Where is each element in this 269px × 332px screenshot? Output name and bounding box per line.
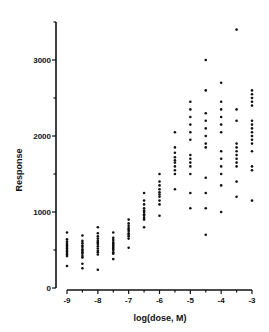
data-point bbox=[97, 232, 100, 235]
x-tick-label: -8 bbox=[94, 296, 102, 305]
data-point bbox=[97, 253, 100, 256]
data-point bbox=[97, 226, 100, 229]
data-point bbox=[66, 255, 69, 258]
data-point bbox=[189, 154, 192, 157]
data-point bbox=[81, 267, 84, 270]
data-point bbox=[251, 199, 254, 202]
data-point bbox=[204, 234, 207, 237]
scatter-chart: 0100020003000 -9-8-7-6-5-4-3 Response lo… bbox=[0, 0, 269, 332]
data-point bbox=[174, 169, 177, 172]
data-point bbox=[158, 191, 161, 194]
x-axis: -9-8-7-6-5-4-3 bbox=[63, 290, 256, 305]
data-point bbox=[174, 159, 177, 162]
y-tick-label: 1000 bbox=[33, 208, 51, 217]
data-point bbox=[220, 116, 223, 119]
data-point bbox=[251, 93, 254, 96]
data-point bbox=[112, 249, 115, 252]
data-point bbox=[189, 101, 192, 104]
data-point bbox=[81, 242, 84, 245]
x-tick-label: -9 bbox=[63, 296, 71, 305]
data-point bbox=[189, 116, 192, 119]
data-point bbox=[235, 120, 238, 123]
data-point bbox=[220, 158, 223, 161]
data-point bbox=[235, 28, 238, 31]
data-point bbox=[112, 253, 115, 256]
data-point bbox=[81, 240, 84, 243]
data-point bbox=[204, 192, 207, 195]
data-point bbox=[220, 131, 223, 134]
data-points bbox=[66, 28, 254, 271]
data-point bbox=[235, 108, 238, 111]
data-point bbox=[204, 127, 207, 130]
data-point bbox=[81, 234, 84, 237]
data-point bbox=[251, 89, 254, 92]
data-point bbox=[81, 262, 84, 265]
data-point bbox=[251, 131, 254, 134]
data-point bbox=[189, 108, 192, 111]
data-point bbox=[158, 173, 161, 176]
data-point bbox=[174, 131, 177, 134]
data-point bbox=[97, 247, 100, 250]
data-point bbox=[174, 165, 177, 168]
data-point bbox=[112, 237, 115, 240]
data-point bbox=[127, 237, 130, 240]
x-axis-title: log(dose, M) bbox=[134, 313, 187, 323]
data-point bbox=[251, 135, 254, 138]
y-axis: 0100020003000 bbox=[33, 22, 56, 293]
data-point bbox=[158, 215, 161, 218]
data-point bbox=[235, 196, 238, 199]
data-point bbox=[204, 59, 207, 62]
data-point bbox=[220, 101, 223, 104]
y-tick-label: 3000 bbox=[33, 56, 51, 65]
data-point bbox=[220, 165, 223, 168]
data-point bbox=[127, 218, 130, 221]
data-point bbox=[251, 150, 254, 153]
data-point bbox=[204, 120, 207, 123]
data-point bbox=[220, 184, 223, 187]
data-point bbox=[174, 156, 177, 159]
data-point bbox=[235, 154, 238, 157]
data-point bbox=[220, 211, 223, 214]
data-point bbox=[189, 123, 192, 126]
data-point bbox=[81, 253, 84, 256]
data-point bbox=[251, 165, 254, 168]
data-point bbox=[143, 203, 146, 206]
data-point bbox=[204, 142, 207, 145]
data-point bbox=[235, 161, 238, 164]
data-point bbox=[81, 246, 84, 249]
data-point bbox=[112, 239, 115, 242]
data-point bbox=[251, 169, 254, 172]
data-point bbox=[220, 108, 223, 111]
data-point bbox=[204, 146, 207, 149]
data-point bbox=[158, 188, 161, 191]
data-point bbox=[220, 173, 223, 176]
data-point bbox=[127, 235, 130, 238]
data-point bbox=[235, 158, 238, 161]
data-point bbox=[66, 231, 69, 234]
data-point bbox=[66, 238, 69, 241]
data-point bbox=[189, 192, 192, 195]
data-point bbox=[235, 165, 238, 168]
data-point bbox=[189, 131, 192, 134]
data-point bbox=[204, 89, 207, 92]
data-point bbox=[204, 112, 207, 115]
data-point bbox=[251, 142, 254, 145]
data-point bbox=[251, 97, 254, 100]
data-point bbox=[204, 207, 207, 210]
data-point bbox=[235, 146, 238, 149]
data-point bbox=[235, 180, 238, 183]
data-point bbox=[143, 207, 146, 210]
data-point bbox=[97, 268, 100, 271]
data-point bbox=[97, 243, 100, 246]
data-point bbox=[174, 188, 177, 191]
data-point bbox=[189, 165, 192, 168]
data-point bbox=[158, 199, 161, 202]
data-point bbox=[189, 207, 192, 210]
data-point bbox=[174, 151, 177, 154]
data-point bbox=[251, 120, 254, 123]
data-point bbox=[204, 135, 207, 138]
data-point bbox=[143, 199, 146, 202]
data-point bbox=[143, 218, 146, 221]
data-point bbox=[97, 235, 100, 238]
data-point bbox=[220, 123, 223, 126]
